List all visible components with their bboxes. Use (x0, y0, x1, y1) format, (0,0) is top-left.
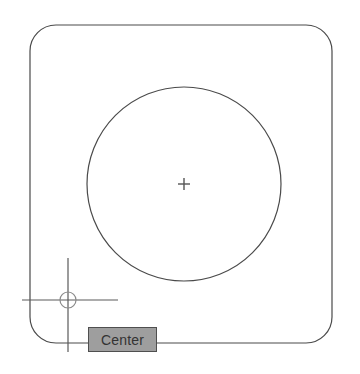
osnap-tooltip-label: Center (101, 333, 144, 347)
circle-center-mark (178, 178, 190, 190)
cad-viewport[interactable]: Center (0, 0, 360, 374)
drawing-canvas[interactable] (0, 0, 360, 374)
osnap-tooltip[interactable]: Center (88, 327, 157, 352)
